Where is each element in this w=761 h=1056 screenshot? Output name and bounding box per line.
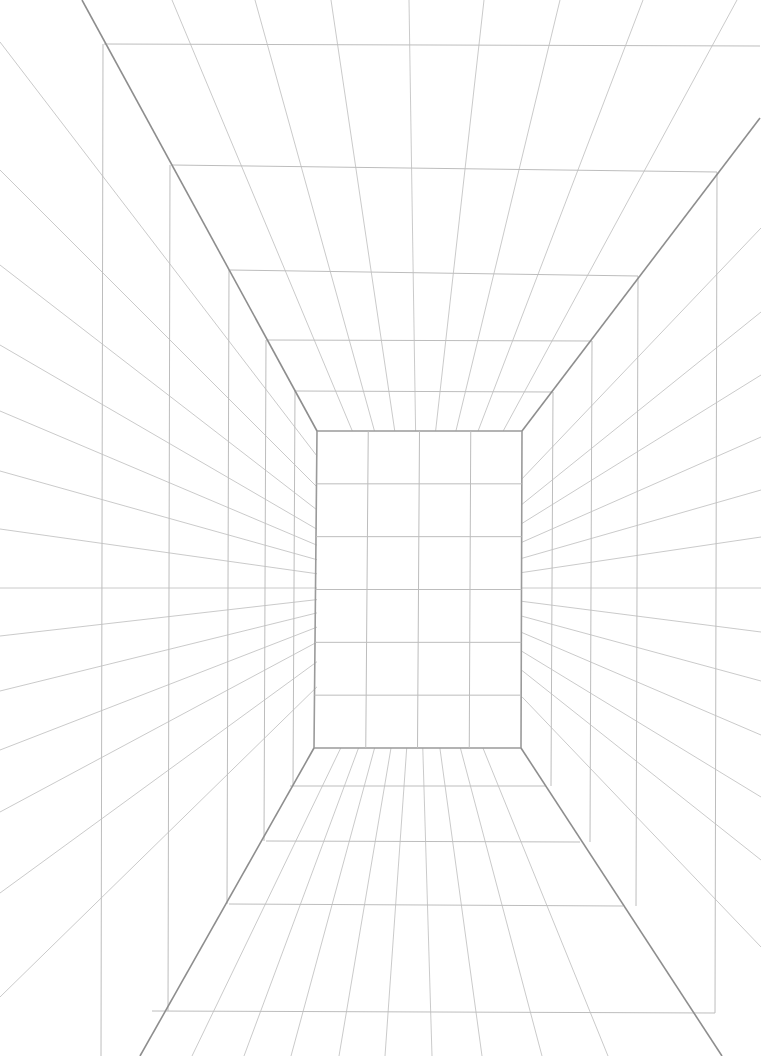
- paper-background: [0, 0, 761, 1056]
- perspective-grid-drawing: [0, 0, 761, 1056]
